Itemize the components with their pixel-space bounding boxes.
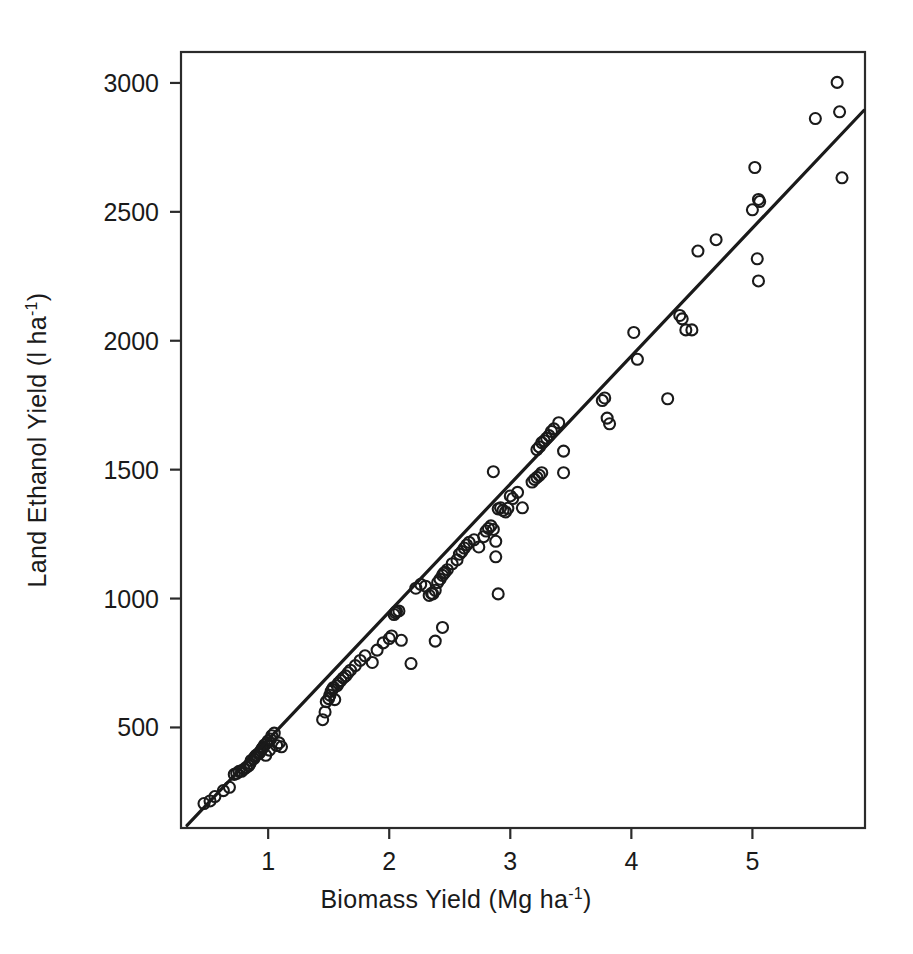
y-tick-label: 3000 [103, 69, 159, 97]
data-point [832, 77, 843, 88]
x-tick-label: 5 [745, 847, 759, 875]
data-point [558, 467, 569, 478]
plot-frame [181, 52, 865, 828]
data-point [490, 536, 501, 547]
scatter-plot: 1234550010001500200025003000 Biomass Yie… [0, 0, 913, 954]
data-point [493, 588, 504, 599]
x-tick-label: 2 [382, 847, 396, 875]
data-point [662, 393, 673, 404]
data-points [199, 77, 848, 809]
data-point [599, 392, 610, 403]
axis-tick-labels: 1234550010001500200025003000 [103, 69, 759, 875]
data-point [677, 313, 688, 324]
chart-figure: 1234550010001500200025003000 Biomass Yie… [0, 0, 913, 954]
regression-line [187, 111, 864, 826]
data-point [749, 162, 760, 173]
data-point [490, 551, 501, 562]
data-point [810, 113, 821, 124]
plot-border [181, 52, 865, 828]
data-point [367, 657, 378, 668]
axis-ticks [170, 83, 752, 839]
y-tick-label: 2000 [103, 327, 159, 355]
data-point [437, 622, 448, 633]
fit-line [187, 111, 864, 826]
data-point [488, 466, 499, 477]
y-tick-label: 1000 [103, 585, 159, 613]
data-point [406, 658, 417, 669]
x-tick-label: 4 [624, 847, 638, 875]
x-axis-title: Biomass Yield (Mg ha-1) [320, 885, 591, 913]
y-tick-label: 500 [117, 713, 159, 741]
x-tick-label: 3 [503, 847, 517, 875]
data-point [430, 636, 441, 647]
svg-text:Land Ethanol Yield (l ha-1): Land Ethanol Yield (l ha-1) [23, 293, 51, 588]
data-point [692, 246, 703, 257]
data-point [396, 635, 407, 646]
svg-text:Biomass Yield (Mg ha-1): Biomass Yield (Mg ha-1) [320, 885, 591, 913]
y-tick-label: 1500 [103, 456, 159, 484]
data-point [558, 446, 569, 457]
data-point [752, 253, 763, 264]
y-tick-label: 2500 [103, 198, 159, 226]
data-point [517, 502, 528, 513]
data-point [753, 275, 764, 286]
data-point [834, 106, 845, 117]
data-point [372, 645, 383, 656]
data-point [837, 172, 848, 183]
y-axis-title: Land Ethanol Yield (l ha-1) [23, 293, 51, 588]
data-point [711, 234, 722, 245]
data-point [628, 327, 639, 338]
x-tick-label: 1 [261, 847, 275, 875]
